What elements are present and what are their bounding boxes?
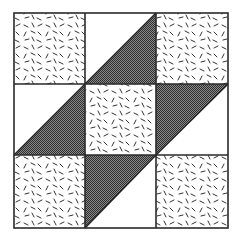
quilt-block-diagram (0, 0, 237, 238)
cell-speckled (156, 13, 228, 84)
cell-speckled (156, 155, 228, 228)
cell-half-triangle (156, 84, 228, 155)
cell-speckled (85, 84, 156, 155)
cell-speckled (14, 13, 85, 84)
cell-half-triangle (14, 84, 85, 155)
cell-speckled (14, 155, 85, 228)
cell-half-triangle (85, 13, 156, 84)
cell-half-triangle (85, 155, 156, 228)
